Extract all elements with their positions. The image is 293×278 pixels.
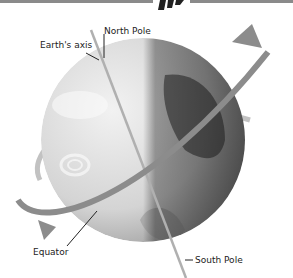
- arrow-head-bottom: [38, 220, 56, 240]
- earths-axis-label: Earth's axis: [40, 40, 92, 50]
- south-pole-label: South Pole: [195, 255, 243, 265]
- north-pole-label: North Pole: [104, 26, 151, 36]
- equator-label: Equator: [33, 247, 68, 257]
- arrow-head-top: [232, 24, 262, 48]
